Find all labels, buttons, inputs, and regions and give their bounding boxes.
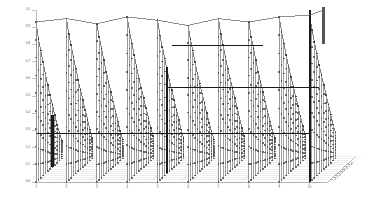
x-axis-tick-label: 9 (273, 186, 285, 189)
y-axis-tick-label: 0.0 (14, 180, 30, 183)
z-axis-tick-label: 8 (351, 163, 363, 166)
x-axis-tick-label: 8 (243, 186, 255, 189)
x-axis-tick-label: 7 (212, 186, 224, 189)
y-axis-tick-label: 0.7 (14, 60, 30, 63)
x-axis-tick-label: 2 (60, 186, 72, 189)
y-axis-tick-label: 0.3 (14, 128, 30, 131)
x-axis-tick-label: 5 (152, 186, 164, 189)
y-axis-tick-label: 1.0 (14, 8, 30, 11)
y-axis-tick-label: 0.6 (14, 77, 30, 80)
figure-3d-stem-plot: 1.00.90.80.70.60.50.40.30.20.10.01234567… (0, 0, 367, 211)
x-axis-tick-label: 6 (182, 186, 194, 189)
plot-canvas (0, 0, 367, 211)
y-axis-tick-label: 0.9 (14, 25, 30, 28)
y-axis-tick-label: 0.1 (14, 163, 30, 166)
x-axis-tick-label: 1 (30, 186, 42, 189)
y-axis-tick-label: 0.5 (14, 94, 30, 97)
y-axis-tick-label: 0.8 (14, 42, 30, 45)
x-axis-tick-label: 3 (91, 186, 103, 189)
y-axis-tick-label: 0.2 (14, 146, 30, 149)
x-axis-tick-label: 4 (121, 186, 133, 189)
x-axis-tick-label: 10 (304, 186, 316, 189)
y-axis-tick-label: 0.4 (14, 111, 30, 114)
